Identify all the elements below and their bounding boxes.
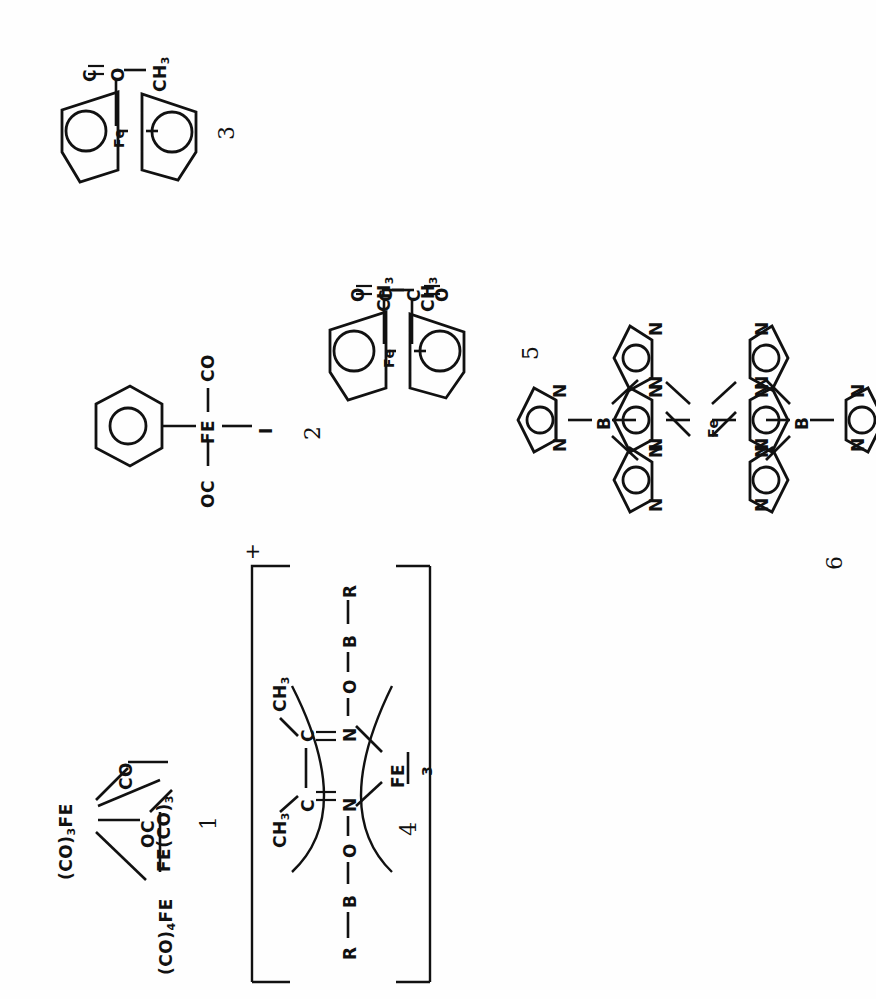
structure-6-nitrogen: N [552, 383, 569, 398]
structure-6-bonds [0, 0, 876, 999]
structure-6-nitrogen: N [648, 443, 665, 458]
structure-6-nitrogen: N [850, 437, 867, 452]
structure-6-nitrogen: N [648, 321, 665, 336]
structure-6-nitrogen: N [850, 383, 867, 398]
structure-6-nitrogen: N [648, 375, 665, 390]
structure-6-nitrogen: N [552, 437, 569, 452]
structure-6-boron-upper: B [596, 417, 613, 430]
structure-6-nitrogen: N [754, 497, 771, 512]
structure-6-boron-lower: B [794, 417, 811, 430]
structure-6-metal-label: Fe [706, 419, 720, 439]
structure-6-nitrogen: N [754, 321, 771, 336]
structure-6-nitrogen: N [754, 443, 771, 458]
structure-plate: (CO)3FE (CO)4FE FE(CO)3 CO OC 1 FE CO OC [0, 0, 876, 999]
structure-6-nitrogen: N [754, 375, 771, 390]
structure-6-label: 6 [822, 556, 847, 570]
structure-6-nitrogen: N [648, 497, 665, 512]
